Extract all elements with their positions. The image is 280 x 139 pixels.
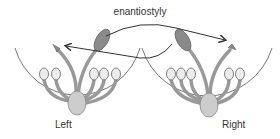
right-flower [142,27,272,117]
left-ovary [68,91,86,115]
arrow-to-left-stigma [66,44,172,58]
right-flower-label: Right [222,119,245,130]
left-flower [15,27,140,115]
arrow-to-right-stigma [106,24,225,40]
diagram-title: enantiostyly [0,6,280,17]
left-large-anther [91,27,113,54]
right-ovary [200,93,218,117]
left-flower-label: Left [55,119,72,130]
